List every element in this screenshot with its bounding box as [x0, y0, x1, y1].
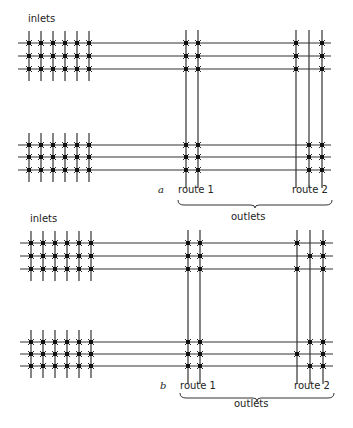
- panel-label: b: [160, 380, 166, 391]
- outlets-brace: [178, 200, 332, 208]
- inlet-group-1: [18, 31, 331, 81]
- panel-b: inletsbroute 1route 2outlets: [20, 213, 334, 409]
- panel-a: inletsaroute 1route 2outlets: [18, 13, 332, 222]
- route-1-label: route 1: [178, 184, 214, 195]
- outlets-label: outlets: [231, 211, 265, 222]
- inlet-group-2: [20, 330, 333, 378]
- crossbar-routing-diagram: inletsaroute 1route 2outlets inletsbrout…: [0, 0, 353, 428]
- inlets-label: inlets: [30, 213, 57, 224]
- outlet-routes: [186, 30, 322, 188]
- route-1-label: route 1: [180, 380, 216, 391]
- panel-label: a: [158, 184, 164, 195]
- outlets-brace: [180, 393, 334, 401]
- outlet-routes: [188, 230, 323, 384]
- outlets-label: outlets: [234, 398, 268, 409]
- inlet-group-2: [18, 133, 331, 182]
- route-2-label: route 2: [294, 380, 330, 391]
- inlet-group-1: [20, 231, 333, 281]
- inlets-label: inlets: [28, 13, 55, 24]
